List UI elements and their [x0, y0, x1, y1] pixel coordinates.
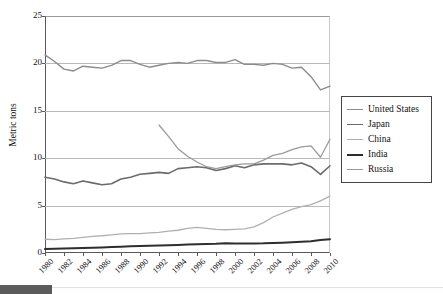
legend-item-label: Japan	[368, 119, 390, 130]
legend-item-label: Russia	[368, 164, 393, 175]
y-tick-label: 20	[4, 58, 42, 67]
x-tick-mark	[102, 253, 103, 256]
legend-item[interactable]: Russia	[347, 162, 426, 177]
legend-item-label: India	[368, 149, 388, 160]
scrollbar-thumb[interactable]	[0, 285, 52, 294]
scrollbar-track[interactable]	[0, 287, 443, 292]
x-tick-mark	[178, 253, 179, 256]
y-axis-title: Metric tons	[8, 80, 18, 170]
chart-legend: United StatesJapanChinaIndiaRussia	[341, 96, 432, 183]
legend-item[interactable]: United States	[347, 102, 426, 117]
y-tick-label: 25	[4, 11, 42, 20]
legend-line-icon	[347, 169, 363, 170]
series-line	[45, 55, 330, 90]
legend-item-label: China	[368, 134, 391, 145]
legend-item[interactable]: India	[347, 147, 426, 162]
x-tick-mark	[121, 253, 122, 256]
chart-figure: 0510152025 Metric tons 19801982198419861…	[0, 0, 443, 294]
x-tick-mark	[292, 253, 293, 256]
legend-item-label: United States	[368, 104, 419, 115]
legend-line-icon	[347, 124, 363, 125]
x-tick-mark	[216, 253, 217, 256]
legend-line-icon	[347, 154, 363, 156]
plot-area	[45, 16, 330, 253]
x-tick-mark	[83, 253, 84, 256]
series-line	[45, 163, 330, 185]
series-lines	[45, 16, 330, 253]
bottom-scrollbar[interactable]	[0, 285, 443, 294]
legend-line-icon	[347, 139, 363, 140]
y-tick-label: 5	[4, 201, 42, 210]
x-tick-mark	[197, 253, 198, 256]
x-tick-mark	[45, 253, 46, 256]
x-tick-mark	[254, 253, 255, 256]
series-line	[159, 125, 330, 169]
x-tick-mark	[311, 253, 312, 256]
legend-line-icon	[347, 109, 363, 110]
legend-item[interactable]: China	[347, 132, 426, 147]
x-tick-mark	[235, 253, 236, 256]
x-tick-mark	[273, 253, 274, 256]
series-line	[45, 239, 330, 249]
x-tick-mark	[140, 253, 141, 256]
x-tick-mark	[330, 253, 331, 256]
y-axis: 0510152025	[0, 16, 42, 253]
legend-item[interactable]: Japan	[347, 117, 426, 132]
y-tick-label: 0	[4, 248, 42, 257]
x-tick-mark	[64, 253, 65, 256]
series-line	[45, 196, 330, 239]
x-tick-mark	[159, 253, 160, 256]
